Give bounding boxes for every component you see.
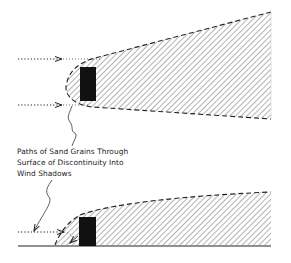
profile-view (18, 180, 271, 246)
leader-line-lower (34, 180, 52, 231)
wind-shadow-diagram (0, 0, 291, 263)
plan-view (18, 12, 271, 146)
wind-shadow-zone (66, 12, 271, 119)
leader-line-upper (68, 106, 76, 146)
caption-line-1: Paths of Sand Grains Through (17, 146, 157, 157)
caption-line-2: Surface of Discontinuity Into (17, 157, 157, 168)
obstacle-block (80, 67, 96, 101)
caption-line-3: Wind Shadows (17, 168, 157, 179)
caption-label: Paths of Sand Grains Through Surface of … (17, 146, 157, 179)
obstacle-block-profile (79, 217, 96, 246)
